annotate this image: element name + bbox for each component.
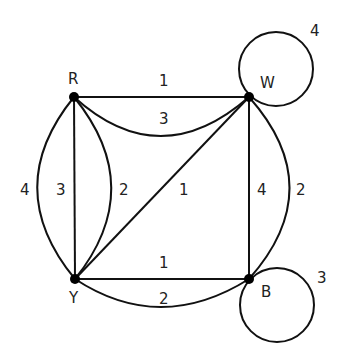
weight-y-b-2: 2 bbox=[159, 290, 169, 308]
node-r bbox=[69, 92, 79, 102]
node-b bbox=[244, 274, 254, 284]
weight-r-y-2: 2 bbox=[119, 181, 129, 199]
node-label-w: W bbox=[260, 74, 275, 92]
weight-r-w-1: 1 bbox=[159, 72, 169, 90]
node-label-r: R bbox=[68, 70, 78, 88]
weight-r-y-3: 3 bbox=[56, 181, 66, 199]
weight-w-loop: 4 bbox=[310, 22, 320, 40]
edge-r-y-3 bbox=[74, 97, 75, 279]
weight-w-b-2: 2 bbox=[296, 181, 306, 199]
weight-y-b-1: 1 bbox=[159, 254, 169, 272]
graph-diagram: R W Y B 1 3 4 3 2 1 4 2 1 2 4 3 bbox=[0, 0, 342, 359]
weight-r-y-4: 4 bbox=[20, 181, 30, 199]
edge-w-b-2 bbox=[249, 97, 290, 279]
node-label-y: Y bbox=[68, 289, 79, 307]
edge-r-y-2 bbox=[74, 97, 111, 279]
node-w bbox=[244, 92, 254, 102]
weight-w-b-4: 4 bbox=[257, 181, 267, 199]
node-label-b: B bbox=[261, 283, 271, 301]
node-y bbox=[70, 274, 80, 284]
weight-b-loop: 3 bbox=[317, 269, 327, 287]
weight-y-w-1: 1 bbox=[179, 181, 189, 199]
weight-r-w-3: 3 bbox=[159, 110, 169, 128]
